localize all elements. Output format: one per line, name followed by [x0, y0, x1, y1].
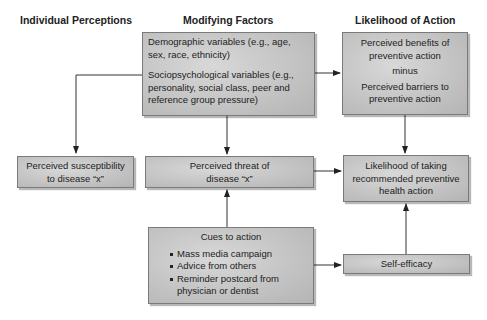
self-efficacy-text: Self-efficacy	[381, 258, 433, 269]
perceived-benefits-text: Perceived benefits of preventive action	[347, 37, 463, 62]
benefits-barriers-box: Perceived benefits of preventive action …	[342, 32, 468, 115]
perceived-susceptibility-box: Perceived susceptibility to disease “x”	[17, 156, 134, 188]
perceived-susceptibility-text: Perceived susceptibility to disease “x”	[26, 160, 125, 184]
cue-item: Reminder postcard from physician or dent…	[169, 273, 307, 298]
demographic-variables-text: Demographic variables (e.g., age, sex, r…	[148, 36, 309, 61]
cues-list: Mass media campaign Advice from others R…	[169, 248, 307, 298]
cues-to-action-box: Cues to action Mass media campaign Advic…	[148, 227, 314, 304]
perceived-barriers-text: Perceived barriers to preventive action	[347, 81, 463, 106]
cue-item: Advice from others	[169, 260, 307, 273]
sociopsychological-variables-text: Sociopsychological variables (e.g., pers…	[148, 69, 309, 107]
header-individual-perceptions: Individual Perceptions	[20, 14, 132, 26]
likelihood-of-action-box: Likelihood of taking recommended prevent…	[343, 155, 469, 202]
self-efficacy-box: Self-efficacy	[343, 254, 470, 274]
minus-text: minus	[347, 65, 463, 78]
perceived-threat-box: Perceived threat of disease “x”	[145, 156, 314, 188]
modifying-factors-box: Demographic variables (e.g., age, sex, r…	[142, 32, 315, 116]
header-modifying-factors: Modifying Factors	[183, 14, 273, 26]
header-likelihood-of-action: Likelihood of Action	[355, 14, 456, 26]
cue-item: Mass media campaign	[169, 248, 307, 261]
perceived-threat-text: Perceived threat of disease “x”	[190, 160, 270, 184]
likelihood-of-action-text: Likelihood of taking recommended prevent…	[352, 160, 459, 196]
cues-to-action-title: Cues to action	[155, 231, 307, 244]
